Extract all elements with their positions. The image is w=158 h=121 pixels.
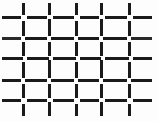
mesh-svg — [0, 0, 158, 121]
woven-mesh-image — [0, 0, 158, 121]
